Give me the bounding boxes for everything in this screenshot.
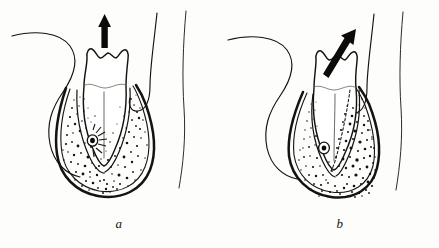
panel-a-tooth-outline [83, 49, 128, 166]
panel-a-movement-arrow [98, 14, 111, 48]
figure-root: Tooth movement diagrams [0, 0, 439, 248]
panel-b-caption: b [325, 216, 355, 232]
panel-b [219, 0, 439, 214]
panel-b-neurovascular-bundle [319, 142, 330, 154]
panel-a-far-tissue-line [179, 11, 186, 188]
panel-a [0, 0, 220, 214]
panel-b-left-mucosa-curve [228, 37, 297, 179]
panel-a-left-mucosa-curve [12, 33, 80, 177]
panel-a-caption: a [104, 216, 134, 232]
panel-b-far-tissue-line [396, 12, 403, 190]
